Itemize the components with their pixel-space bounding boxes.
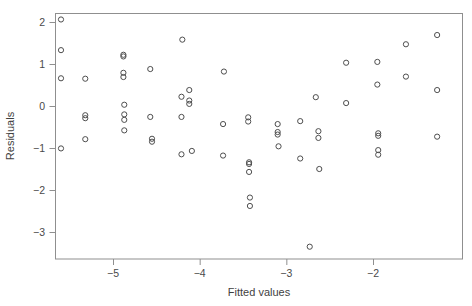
x-tick-label: −3 [280,267,292,279]
y-tick-label: −1 [33,142,45,154]
y-tick-label: 0 [39,100,45,112]
residuals-vs-fitted-chart: 210−1−2−3 −5−4−3−2 Fitted values Residua… [0,0,472,306]
y-tick-label: −3 [33,226,45,238]
scatter-plot-figure: 210−1−2−3 −5−4−3−2 Fitted values Residua… [0,0,472,306]
y-tick-label: 1 [39,58,45,70]
y-axis-title: Residuals [4,111,16,160]
x-tick-label: −4 [194,267,206,279]
x-axis-title: Fitted values [228,286,291,298]
chart-background [0,0,472,306]
x-tick-label: −5 [107,267,119,279]
y-tick-label: −2 [33,184,45,196]
x-tick-label: −2 [367,267,379,279]
y-tick-label: 2 [39,16,45,28]
